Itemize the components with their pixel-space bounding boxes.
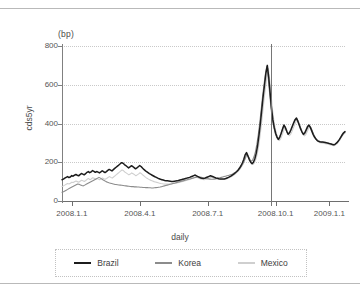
legend-label: Brazil xyxy=(97,258,118,268)
legend-swatch-brazil xyxy=(74,262,91,264)
x-tick-label: 2008.7.1 xyxy=(178,209,238,218)
legend-item-korea[interactable]: Korea xyxy=(155,258,201,268)
x-axis-line xyxy=(61,201,349,202)
x-tick-label: 2008.1.1 xyxy=(42,209,102,218)
x-tick xyxy=(276,201,277,206)
y-tick xyxy=(58,201,63,202)
legend-label: Mexico xyxy=(261,258,288,268)
x-tick-label: 2008.4.1 xyxy=(110,209,170,218)
legend-swatch-mexico xyxy=(238,262,255,264)
x-axis-title: daily xyxy=(0,232,360,242)
legend-item-mexico[interactable]: Mexico xyxy=(238,258,288,268)
series-line-brazil xyxy=(62,65,345,181)
y-tick-labels: 0200400600800 xyxy=(24,46,58,201)
event-marker-line xyxy=(271,44,272,206)
x-tick xyxy=(329,201,330,206)
series-line-mexico xyxy=(62,68,345,186)
y-tick-label: 800 xyxy=(32,41,58,50)
plot-area xyxy=(62,46,345,201)
legend-swatch-korea xyxy=(155,262,172,264)
x-tick xyxy=(208,201,209,206)
series-line-korea xyxy=(62,66,345,192)
y-tick-label: 0 xyxy=(32,196,58,205)
legend-item-brazil[interactable]: Brazil xyxy=(74,258,118,268)
x-tick xyxy=(140,201,141,206)
y-tick-label: 200 xyxy=(32,157,58,166)
y-tick-label: 600 xyxy=(32,80,58,89)
chart-legend: BrazilKoreaMexico xyxy=(55,249,307,277)
series-paths xyxy=(62,46,345,201)
y-tick-label: 400 xyxy=(32,119,58,128)
x-tick xyxy=(72,201,73,206)
y-axis-unit-label: (bp) xyxy=(58,29,74,39)
figure-page: (bp) cds5yr 0200400600800 2008.1.12008.4… xyxy=(0,0,360,292)
cds-spread-chart: (bp) cds5yr 0200400600800 2008.1.12008.4… xyxy=(0,9,360,283)
bottom-divider xyxy=(0,283,360,284)
legend-label: Korea xyxy=(178,258,201,268)
x-tick-label: 2009.1.1 xyxy=(299,209,359,218)
x-tick-label: 2008.10.1 xyxy=(246,209,306,218)
